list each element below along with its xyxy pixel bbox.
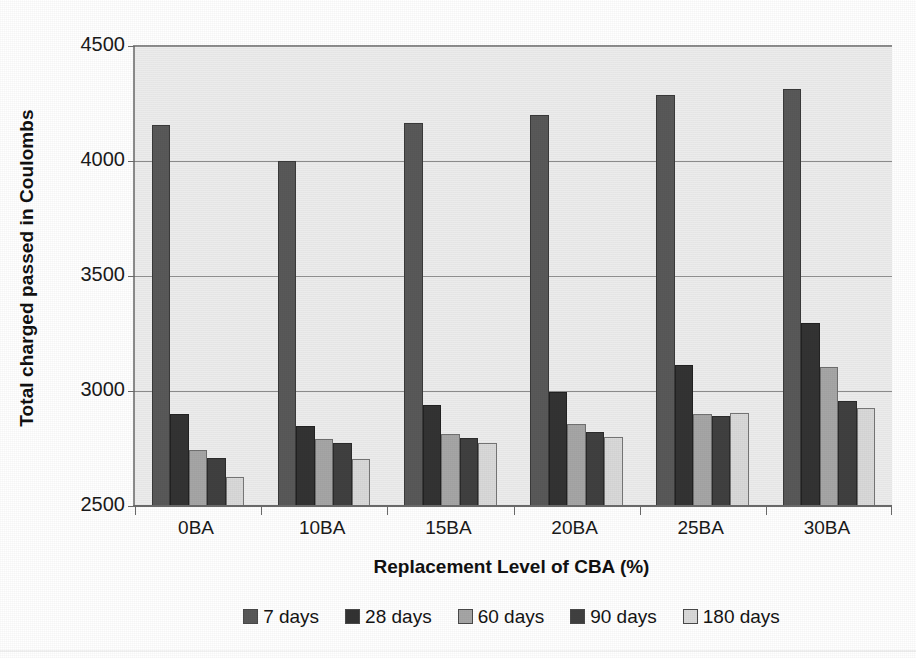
bar-group xyxy=(766,46,892,506)
legend-item[interactable]: 60 days xyxy=(458,607,545,626)
legend-item[interactable]: 7 days xyxy=(243,607,319,626)
bar xyxy=(693,414,712,506)
chart-legend: 7 days28 days60 days90 days180 days xyxy=(133,601,890,631)
x-axis-category-separator xyxy=(387,506,388,515)
y-axis-tick xyxy=(128,46,135,47)
bar xyxy=(170,414,189,506)
bar xyxy=(189,450,208,506)
bar xyxy=(820,367,839,506)
y-axis-tick xyxy=(128,391,135,392)
plot-area xyxy=(133,45,892,506)
bar xyxy=(207,458,226,506)
x-axis-tick-label: 0BA xyxy=(133,516,259,540)
legend-swatch-icon xyxy=(683,609,698,624)
x-axis-category-separator xyxy=(135,506,136,515)
legend-item[interactable]: 90 days xyxy=(570,607,657,626)
y-axis-title: Total charged passed in Coulombs xyxy=(10,48,44,488)
x-axis-category-separator xyxy=(514,506,515,515)
y-axis-tick-label: 2500 xyxy=(57,494,125,514)
y-axis-tick-labels: 25003000350040004500 xyxy=(45,0,125,658)
legend-item[interactable]: 180 days xyxy=(683,607,780,626)
bar xyxy=(333,443,352,506)
bar xyxy=(801,323,820,506)
bar xyxy=(478,443,497,506)
x-axis-title: Replacement Level of CBA (%) xyxy=(133,556,890,578)
bar-group xyxy=(261,46,387,506)
bar xyxy=(857,408,876,506)
y-axis-tick-label: 3000 xyxy=(57,379,125,399)
legend-item[interactable]: 28 days xyxy=(345,607,432,626)
bar xyxy=(460,438,479,506)
bar xyxy=(530,115,549,506)
bar xyxy=(712,416,731,506)
bar xyxy=(278,161,297,506)
bar xyxy=(783,89,802,506)
legend-label: 60 days xyxy=(478,607,545,626)
x-axis-tick-label: 20BA xyxy=(512,516,638,540)
x-axis-tick-label: 30BA xyxy=(764,516,890,540)
bar xyxy=(296,426,315,507)
x-axis-category-separator xyxy=(261,506,262,515)
x-axis-tick-label: 10BA xyxy=(259,516,385,540)
legend-label: 90 days xyxy=(590,607,657,626)
y-axis-tick-label: 4000 xyxy=(57,149,125,169)
bar xyxy=(675,365,694,506)
bar xyxy=(656,95,675,506)
x-axis-category-separator xyxy=(891,506,892,515)
x-axis-tick-labels: 0BA10BA15BA20BA25BA30BA xyxy=(133,516,890,546)
bar xyxy=(352,459,371,506)
page-edge-smudge xyxy=(0,650,916,652)
bar xyxy=(567,424,586,506)
bar-group xyxy=(135,46,261,506)
bar xyxy=(152,125,171,506)
legend-swatch-icon xyxy=(458,609,473,624)
legend-swatch-icon xyxy=(345,609,360,624)
x-axis-line xyxy=(133,505,892,507)
bar xyxy=(315,439,334,506)
legend-swatch-icon xyxy=(570,609,585,624)
bar-chart-figure: Total charged passed in Coulombs 2500300… xyxy=(0,0,916,658)
x-axis-tick-label: 25BA xyxy=(638,516,764,540)
bar xyxy=(404,123,423,506)
y-axis-tick xyxy=(128,276,135,277)
bar-group xyxy=(387,46,513,506)
legend-label: 180 days xyxy=(703,607,780,626)
legend-label: 7 days xyxy=(263,607,319,626)
bar xyxy=(604,437,623,506)
bar xyxy=(226,477,245,506)
x-axis-category-separator xyxy=(766,506,767,515)
bar xyxy=(549,392,568,506)
y-axis-tick-label: 3500 xyxy=(57,264,125,284)
bar xyxy=(730,413,749,506)
bar-group xyxy=(514,46,640,506)
bar-series-container xyxy=(135,46,892,506)
legend-swatch-icon xyxy=(243,609,258,624)
bar xyxy=(441,434,460,506)
bar xyxy=(423,405,442,506)
x-axis-tick-label: 15BA xyxy=(385,516,511,540)
bar xyxy=(838,401,857,506)
y-axis-tick-label: 4500 xyxy=(57,34,125,54)
bar-group xyxy=(640,46,766,506)
bar xyxy=(586,432,605,506)
legend-label: 28 days xyxy=(365,607,432,626)
x-axis-category-separator xyxy=(640,506,641,515)
y-axis-tick xyxy=(128,161,135,162)
